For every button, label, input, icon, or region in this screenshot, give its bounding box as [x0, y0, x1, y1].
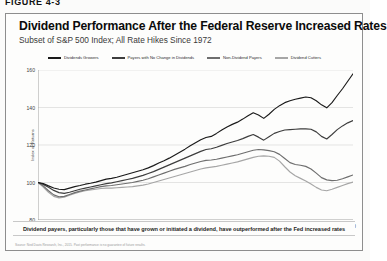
y-tick-label: 120: [27, 142, 36, 148]
caption-text: Dividend payers, particularly those that…: [23, 226, 345, 232]
figure-label: FIGURE 4-3: [5, 0, 61, 6]
y-tick-label: 160: [27, 67, 36, 73]
chart-subtitle: Subset of S&P 500 Index; All Rate Hikes …: [19, 35, 212, 45]
legend-swatch-icon: [48, 57, 61, 59]
legend-swatch-icon: [275, 57, 288, 59]
chart-card: Dividend Performance After the Federal R…: [5, 13, 363, 251]
series-line: [38, 150, 353, 197]
legend-label: Dividends Growers: [64, 56, 99, 60]
series-line: [38, 156, 353, 198]
y-tick-label: 100: [27, 180, 36, 186]
legend-label: Dividend Cutters: [291, 56, 321, 60]
chart-title: Dividend Performance After the Federal R…: [19, 19, 387, 33]
legend-item[interactable]: Payers with No Change in Dividends: [112, 56, 194, 60]
chart-canvas: [38, 70, 353, 220]
legend-label: Payers with No Change in Dividends: [128, 56, 194, 60]
chart-legend: Dividends GrowersPayers with No Change i…: [48, 52, 354, 64]
legend-swatch-icon: [207, 57, 220, 59]
legend-item[interactable]: Non-Dividend Payers: [207, 56, 262, 60]
caption-bar: Dividend payers, particularly those that…: [13, 221, 355, 236]
y-tick-label: 140: [27, 105, 36, 111]
source-note: Source: Ned Davis Research, Inc., 2015. …: [15, 243, 145, 247]
legend-item[interactable]: Dividends Growers: [48, 56, 99, 60]
series-line: [38, 74, 353, 190]
legend-item[interactable]: Dividend Cutters: [275, 56, 321, 60]
legend-swatch-icon: [112, 57, 125, 59]
legend-label: Non-Dividend Payers: [223, 56, 262, 60]
plot-area: Index of Returns 80100120140160 05101520…: [38, 70, 353, 220]
